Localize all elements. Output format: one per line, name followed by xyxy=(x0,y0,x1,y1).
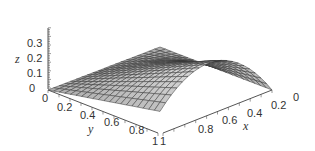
surface-plot: 0 0.1 0.2 0.3 z 0 0.2 0.4 0.6 0.8 1 y 1 … xyxy=(0,0,315,151)
y-tick-3: 0.6 xyxy=(104,116,119,128)
y-tick-5: 1 xyxy=(152,135,158,147)
x-tick-0: 0 xyxy=(293,91,299,103)
z-axis-label: z xyxy=(14,52,20,66)
y-tick-1: 0.2 xyxy=(57,101,72,113)
y-tick-2: 0.4 xyxy=(80,109,95,121)
y-tick-0: 0 xyxy=(42,92,48,104)
x-tick-3: 0.6 xyxy=(222,114,237,126)
z-tick-2: 0.2 xyxy=(27,52,42,64)
z-tick-1: 0.1 xyxy=(27,67,42,79)
x-axis-label: x xyxy=(242,119,249,133)
x-tick-4: 0.8 xyxy=(198,123,213,135)
x-tick-1: 0.2 xyxy=(271,99,286,111)
z-tick-3: 0.3 xyxy=(27,37,42,49)
y-axis-label: y xyxy=(87,122,94,136)
y-tick-4: 0.8 xyxy=(129,124,144,136)
z-tick-0: 0 xyxy=(29,82,35,94)
x-tick-5: 1 xyxy=(160,135,166,147)
x-tick-2: 0.4 xyxy=(247,107,262,119)
surface-mesh xyxy=(48,47,272,111)
